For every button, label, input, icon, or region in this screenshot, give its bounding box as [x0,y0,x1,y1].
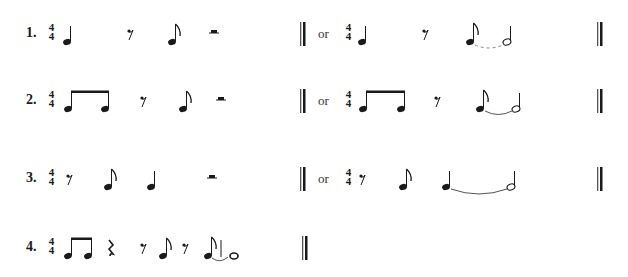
or-label: or [318,26,329,42]
quarter-note-icon [357,26,367,46]
eighth-note-icon [158,238,171,260]
time-signature: 44 [47,168,56,186]
half-note-icon [506,171,516,191]
or-label: or [318,171,329,187]
eighth-rest-icon [140,96,146,107]
time-signature: 44 [344,23,353,41]
tie-icon [451,189,507,194]
eighth-rest-icon [66,174,72,185]
final-barline-icon [597,167,603,197]
exercise-number: 2. [26,92,37,108]
double-barline-icon [300,89,306,119]
eighth-rest-icon [182,243,188,254]
eighth-rest-icon [359,174,365,185]
eighth-note-icon [475,90,488,113]
half-rest-icon [209,30,219,33]
time-signature: 44 [47,23,56,41]
final-barline-icon [302,236,308,266]
eighth-note-icon [203,237,216,260]
beamed-eighth-notes-icon [63,91,110,114]
exercise-3: 3. 44 or 44 [0,163,628,203]
notation-option-b [355,163,615,203]
tie-icon [485,111,512,115]
exercise-number: 1. [26,25,37,41]
eighth-rest-icon [422,29,428,40]
eighth-note-icon [103,169,116,191]
half-note-icon [511,93,521,113]
notation-option-b [355,85,615,125]
exercise-number: 3. [26,170,37,186]
half-note-icon [502,26,512,46]
half-rest-icon [216,97,226,100]
exercise-2: 2. 44 or 44 [0,85,628,125]
quarter-rest-icon [109,240,113,256]
quarter-note-icon [62,26,72,46]
tie-icon [475,45,503,48]
eighth-rest-icon [434,96,440,107]
beamed-eighth-notes-icon [358,91,406,114]
time-signature: 44 [344,168,353,186]
eighth-note-icon [398,169,411,191]
final-barline-icon [597,22,603,52]
half-rest-icon [207,175,217,178]
exercise-number: 4. [26,239,37,255]
double-barline-icon [300,167,306,197]
tie-icon [212,257,228,261]
notation-option-a [60,18,320,58]
double-barline-icon [300,22,306,52]
or-label: or [318,93,329,109]
notation-option-a [60,232,320,272]
exercise-4: 4. 44 [0,232,628,272]
notation-option-a [60,163,320,203]
notation-option-b [355,18,615,58]
eighth-note-icon [167,24,180,46]
eighth-note-icon [465,23,478,46]
beamed-eighth-notes-icon [63,238,93,261]
time-signature: 44 [47,237,56,255]
time-signature: 44 [47,90,56,108]
exercise-1: 1. 44 or 44 [0,18,628,58]
whole-note-icon [230,253,238,259]
quarter-note-icon [441,171,451,191]
eighth-rest-icon [140,243,146,254]
quarter-note-icon [146,171,156,191]
eighth-rest-icon [127,29,133,40]
time-signature: 44 [344,90,353,108]
final-barline-icon [597,89,603,119]
notation-option-a [60,85,320,125]
eighth-note-icon [178,91,191,113]
